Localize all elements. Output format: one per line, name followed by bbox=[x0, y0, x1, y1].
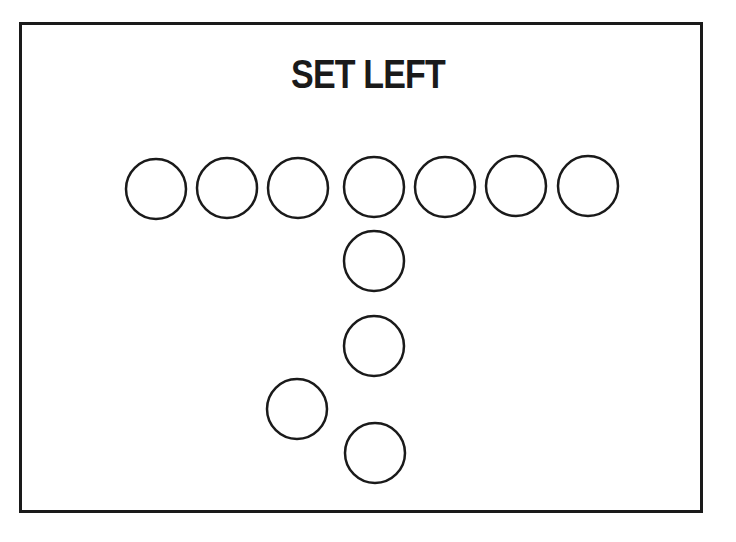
formation-diagram bbox=[0, 0, 736, 542]
player-circle-line-6 bbox=[486, 156, 546, 216]
player-circle-line-4-center bbox=[344, 157, 404, 217]
player-circle-line-5 bbox=[415, 157, 475, 217]
player-circle-left-halfback bbox=[267, 379, 327, 439]
player-circle-line-7 bbox=[558, 156, 618, 216]
player-circle-fullback bbox=[344, 316, 404, 376]
player-circle-tailback bbox=[345, 423, 405, 483]
player-circle-line-3 bbox=[268, 158, 328, 218]
player-circle-line-2 bbox=[197, 158, 257, 218]
player-circle-quarterback bbox=[344, 231, 404, 291]
player-circle-line-1 bbox=[126, 159, 186, 219]
